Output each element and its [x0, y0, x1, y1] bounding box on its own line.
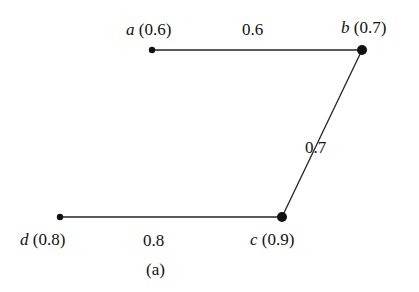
edge-b-c [282, 50, 362, 217]
node-label-a: a (0.6) [126, 20, 171, 39]
edge-weight-c-d: 0.8 [143, 231, 164, 250]
figure-caption: (a) [146, 260, 165, 279]
node-b [357, 45, 367, 55]
node-label-b: b (0.7) [341, 18, 386, 37]
edge-weight-a-b: 0.6 [242, 20, 263, 39]
graph-diagram: a (0.6) b (0.7) c (0.9) d (0.8) 0.6 0.7 … [0, 0, 419, 292]
edge-weight-b-c: 0.7 [305, 138, 327, 157]
node-label-c: c (0.9) [250, 230, 294, 249]
node-d [57, 214, 63, 220]
node-label-d: d (0.8) [20, 230, 65, 249]
node-c [277, 212, 287, 222]
node-a [149, 47, 155, 53]
